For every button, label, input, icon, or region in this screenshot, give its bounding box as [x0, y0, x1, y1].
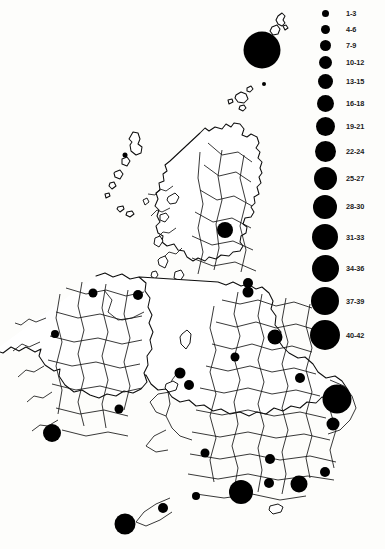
data-point-east-anglia [323, 385, 352, 414]
legend-symbol-40-42 [310, 320, 340, 350]
legend-symbol-28-30 [313, 195, 337, 219]
legend-row-34-36: 34-36 [307, 255, 383, 282]
legend-label-22-24: 22-24 [343, 147, 364, 156]
legend-label-19-21: 19-21 [343, 122, 364, 131]
legend-swatch-wrap [307, 195, 343, 219]
legend-swatch-wrap [307, 255, 343, 282]
legend-label-7-9: 7-9 [343, 41, 356, 50]
data-point-shetland [244, 32, 281, 69]
data-point-central-scotland [217, 222, 233, 238]
legend-symbol-4-6 [321, 25, 330, 34]
data-point-sussex [291, 476, 308, 493]
legend-swatch-wrap [307, 320, 343, 350]
legend-swatch-wrap [307, 141, 343, 162]
legend-swatch-wrap [307, 224, 343, 250]
legend-symbol-7-9 [320, 40, 331, 51]
data-point-wexford [115, 405, 124, 414]
legend: 1-34-67-910-1213-1516-1819-2122-2425-272… [307, 2, 383, 318]
legend-row-31-33: 31-33 [307, 224, 383, 250]
data-point-east-yorkshire [295, 373, 305, 383]
legend-swatch-wrap [307, 56, 343, 69]
data-point-oxfordshire [265, 454, 275, 464]
legend-label-1-3: 1-3 [343, 9, 356, 18]
legend-row-22-24: 22-24 [307, 141, 383, 162]
data-point-northumberland [243, 287, 254, 298]
legend-swatch-wrap [307, 117, 343, 136]
legend-label-31-33: 31-33 [343, 233, 364, 242]
ireland-mainland [0, 273, 153, 436]
legend-row-19-21: 19-21 [307, 117, 383, 136]
legend-swatch-wrap [307, 287, 343, 315]
legend-row-10-12: 10-12 [307, 56, 383, 69]
legend-row-25-27: 25-27 [307, 167, 383, 190]
data-point-outer-hebrides [123, 153, 128, 158]
data-point-north-yorkshire [268, 330, 283, 345]
legend-label-4-6: 4-6 [343, 25, 356, 34]
legend-label-25-27: 25-27 [343, 174, 364, 183]
data-point-south-wales [192, 492, 200, 500]
legend-swatch-wrap [307, 95, 343, 112]
data-point-merseyside [175, 368, 186, 379]
legend-swatch-wrap [307, 24, 343, 35]
data-point-somerset [229, 480, 253, 504]
legend-symbol-13-15 [318, 74, 333, 89]
legend-symbol-34-36 [312, 255, 339, 282]
data-point-antrim [133, 290, 143, 300]
legend-symbol-10-12 [319, 56, 332, 69]
legend-row-4-6: 4-6 [307, 24, 383, 35]
data-point-devon [158, 503, 168, 513]
outer-hebrides [105, 132, 142, 217]
legend-label-28-30: 28-30 [343, 202, 364, 211]
legend-row-28-30: 28-30 [307, 195, 383, 219]
legend-row-13-15: 13-15 [307, 74, 383, 89]
legend-row-37-39: 37-39 [307, 287, 383, 315]
legend-label-34-36: 34-36 [343, 264, 364, 273]
data-point-north-wales [184, 380, 194, 390]
figure-container: 1-34-67-910-1213-1516-1819-2122-2425-272… [0, 0, 385, 549]
legend-symbol-31-33 [312, 224, 338, 250]
legend-symbol-37-39 [311, 287, 339, 315]
legend-symbol-16-18 [317, 95, 334, 112]
legend-row-7-9: 7-9 [307, 40, 383, 51]
data-point-cumbria [231, 353, 240, 362]
data-point-kent [320, 467, 330, 477]
data-point-mayo [51, 330, 59, 338]
data-point-hampshire [264, 478, 274, 488]
legend-swatch-wrap [307, 40, 343, 51]
legend-swatch-wrap [307, 167, 343, 190]
legend-symbol-19-21 [316, 117, 335, 136]
legend-swatch-wrap [307, 74, 343, 89]
legend-label-40-42: 40-42 [343, 331, 364, 340]
legend-label-16-18: 16-18 [343, 99, 364, 108]
legend-symbol-25-27 [314, 167, 337, 190]
legend-swatch-wrap [307, 8, 343, 19]
data-point-midlands [201, 449, 210, 458]
scotland-mainland [143, 123, 262, 289]
data-point-cork [43, 424, 61, 442]
data-point-donegal [89, 289, 98, 298]
data-point-cornwall-scilly [115, 514, 136, 535]
legend-label-37-39: 37-39 [343, 297, 364, 306]
legend-row-16-18: 16-18 [307, 95, 383, 112]
legend-symbol-22-24 [315, 141, 336, 162]
legend-label-13-15: 13-15 [343, 77, 364, 86]
legend-label-10-12: 10-12 [343, 58, 364, 67]
orkney-islands [228, 86, 253, 111]
data-point-orkney [262, 82, 266, 86]
data-point-suffolk [327, 418, 340, 431]
legend-symbol-1-3 [322, 10, 329, 17]
legend-row-1-3: 1-3 [307, 8, 383, 19]
legend-row-40-42: 40-42 [307, 320, 383, 350]
